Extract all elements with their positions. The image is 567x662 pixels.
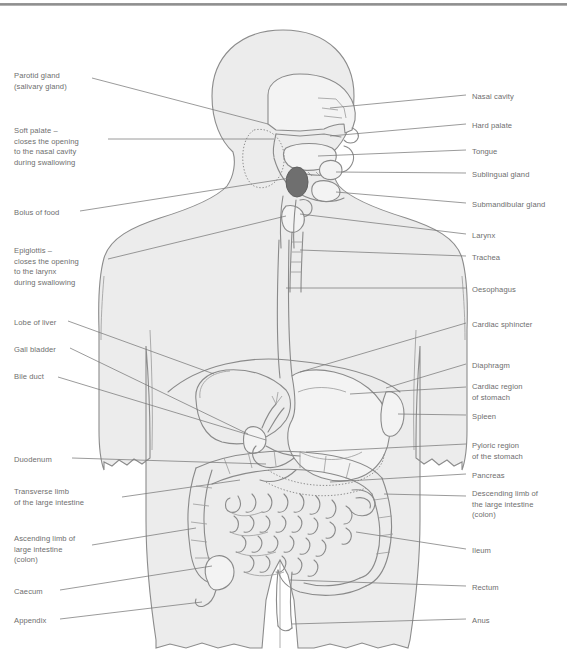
- label-rectum: Rectum: [472, 583, 499, 594]
- label-spleen: Spleen: [472, 412, 496, 423]
- label-pyloric-region: Pyloric region of the stomach: [472, 441, 523, 462]
- label-larynx: Larynx: [472, 231, 495, 242]
- label-cardiac-sphincter: Cardiac sphincter: [472, 320, 532, 331]
- label-submandibular-gland: Submandibular gland: [472, 200, 545, 211]
- label-lobe-of-liver: Lobe of liver: [14, 318, 56, 329]
- label-duodenum: Duodenum: [14, 455, 52, 466]
- label-sublingual-gland: Sublingual gland: [472, 170, 529, 181]
- label-bolus-of-food: Bolus of food: [14, 208, 59, 219]
- label-gall-bladder: Gall bladder: [14, 345, 56, 356]
- label-pancreas: Pancreas: [472, 471, 505, 482]
- label-caecum: Caecum: [14, 587, 43, 598]
- label-oesophagus: Oesophagus: [472, 285, 516, 296]
- label-epiglottis: Epiglottis – closes the opening to the l…: [14, 246, 79, 288]
- label-tongue: Tongue: [472, 147, 497, 158]
- label-descending-limb: Descending limb of the large intestine (…: [472, 489, 538, 521]
- label-nasal-cavity: Nasal cavity: [472, 92, 514, 103]
- label-appendix: Appendix: [14, 616, 46, 627]
- diagram-stage: .bodyfill{fill:#ececec;stroke:#8c8c8c;st…: [0, 0, 567, 662]
- label-ileum: Ileum: [472, 546, 491, 557]
- label-soft-palate: Soft palate – closes the opening to the …: [14, 126, 79, 168]
- label-hard-palate: Hard palate: [472, 121, 512, 132]
- label-ascending-limb: Ascending limb of large intestine (colon…: [14, 534, 75, 566]
- rectum-organ: [277, 570, 279, 626]
- label-trachea: Trachea: [472, 253, 500, 264]
- label-parotid-gland: Parotid gland (salivary gland): [14, 71, 67, 92]
- label-transverse-limb: Transverse limb of the large intestine: [14, 487, 84, 508]
- label-anus: Anus: [472, 616, 490, 627]
- label-bile-duct: Bile duct: [14, 372, 44, 383]
- bolus-of-food-organ: [286, 167, 308, 197]
- label-diaphragm: Diaphragm: [472, 361, 510, 372]
- label-cardiac-region: Cardiac region of stomach: [472, 382, 523, 403]
